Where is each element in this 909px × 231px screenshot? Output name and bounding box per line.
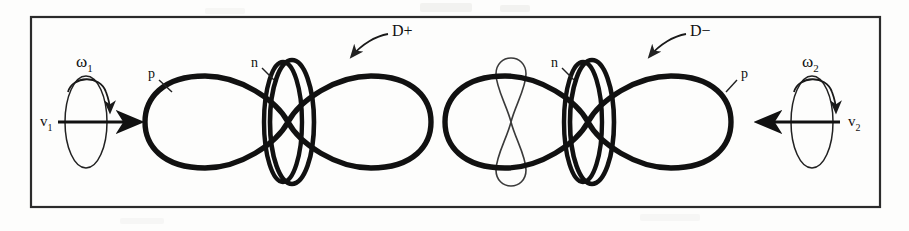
left-deuteron-group bbox=[58, 34, 431, 184]
deuteron-collision-figure: D+ D− p n p n ω1 ω2 bbox=[0, 0, 909, 231]
right-proton-lemniscate bbox=[445, 76, 731, 168]
left-neutron-outer-ring bbox=[270, 60, 314, 184]
label-velocity-1: v1 bbox=[40, 113, 53, 133]
diagram-canvas: D+ D− p n p n ω1 ω2 bbox=[0, 0, 909, 231]
right-charge-pointer-arrow bbox=[650, 34, 686, 56]
right-deuteron-group bbox=[445, 34, 840, 186]
right-neutron-outer-ring bbox=[570, 60, 614, 184]
label-velocity-1-subscript: 1 bbox=[48, 122, 53, 133]
label-omega-2-subscript: 2 bbox=[813, 62, 819, 74]
right-proton-leader-line bbox=[726, 80, 737, 92]
label-neutron-left: n bbox=[251, 55, 258, 70]
left-charge-pointer-arrow bbox=[352, 34, 388, 56]
label-d-plus: D+ bbox=[392, 22, 413, 39]
label-proton-right: p bbox=[741, 66, 748, 81]
label-neutron-right: n bbox=[551, 55, 558, 70]
label-proton-left: p bbox=[148, 66, 155, 81]
figure-border bbox=[31, 17, 880, 207]
label-velocity-2-subscript: 2 bbox=[856, 122, 861, 133]
label-omega-2: ω2 bbox=[802, 52, 819, 74]
label-d-minus: D− bbox=[690, 22, 711, 39]
label-layer: D+ D− p n p n ω1 ω2 bbox=[40, 22, 861, 133]
label-velocity-2: v2 bbox=[848, 113, 861, 133]
left-proton-lemniscate bbox=[145, 76, 431, 168]
label-omega-1-subscript: 1 bbox=[87, 62, 93, 74]
label-omega-1: ω1 bbox=[76, 52, 93, 74]
